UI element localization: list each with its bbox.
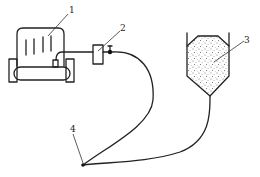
inline-device xyxy=(93,45,112,64)
machine-base xyxy=(14,67,70,80)
hopper-fill xyxy=(188,35,228,96)
machine-outlet xyxy=(53,60,58,67)
label-4: 4 xyxy=(70,124,76,134)
delivery-hose xyxy=(83,52,153,165)
hopper xyxy=(187,33,229,96)
spraying-system-diagram: 1 2 3 4 xyxy=(0,0,260,177)
leader-line-2 xyxy=(98,31,120,51)
nozzle-icon xyxy=(81,163,85,167)
machine xyxy=(9,28,74,82)
material-hose xyxy=(83,96,210,165)
label-3: 3 xyxy=(244,35,250,45)
label-2: 2 xyxy=(120,23,126,33)
leader-line-1 xyxy=(48,14,68,36)
label-1: 1 xyxy=(69,5,75,15)
leader-line-4 xyxy=(73,134,83,163)
